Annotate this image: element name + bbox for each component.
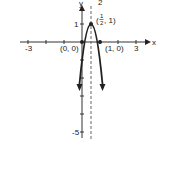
x-tick-label-neg3: -3 bbox=[25, 44, 33, 53]
y-tick-label-1: 1 bbox=[74, 20, 79, 29]
label-one-zero: (1, 0) bbox=[105, 44, 124, 53]
label-origin: (0, 0) bbox=[60, 44, 79, 53]
symmetry-label-fragment: 2 bbox=[98, 0, 103, 7]
label-vertex: ( 1 2 , 1) bbox=[96, 13, 116, 26]
x-tick-label-3: 3 bbox=[134, 44, 139, 53]
point-vertex bbox=[89, 22, 93, 26]
y-tick-label-neg5: -5 bbox=[72, 128, 80, 137]
y-axis: y 1 -5 bbox=[72, 0, 84, 138]
parabola-chart: x -3 3 y 1 -5 2 (0, 0) (1, 0) ( 1 2 , 1) bbox=[0, 0, 175, 176]
point-origin bbox=[80, 40, 84, 44]
x-axis: x -3 3 bbox=[20, 38, 156, 53]
svg-text:(: ( bbox=[96, 16, 99, 25]
point-one-zero bbox=[98, 40, 102, 44]
x-axis-label: x bbox=[152, 38, 156, 47]
y-axis-label: y bbox=[79, 0, 83, 8]
svg-text:, 1): , 1) bbox=[104, 16, 116, 25]
right-arrowhead-icon bbox=[100, 84, 106, 91]
